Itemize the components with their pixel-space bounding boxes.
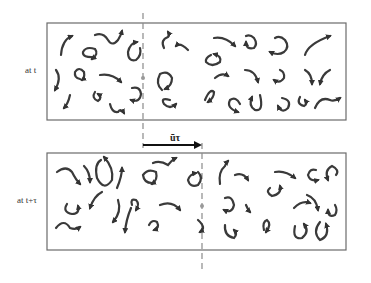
reference-point-t-tau xyxy=(200,204,204,208)
advection-label: ūτ xyxy=(170,132,180,143)
turbulence-diagram xyxy=(0,0,371,283)
eddies-t-tau xyxy=(56,157,337,240)
eddies-t xyxy=(55,31,340,113)
panel-label-t-tau: at t+τ xyxy=(17,195,37,205)
panel-label-t: at t xyxy=(25,65,36,75)
reference-point-t xyxy=(141,76,145,80)
